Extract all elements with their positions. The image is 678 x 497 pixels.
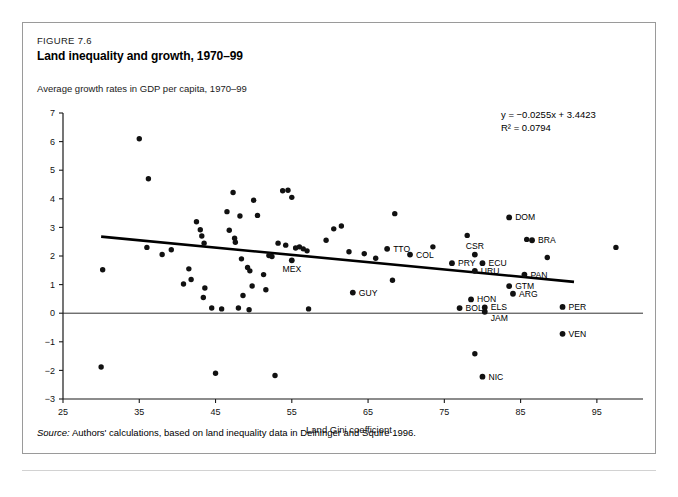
data-point [261,272,266,277]
data-point [323,238,328,243]
data-point [159,252,164,257]
data-point [194,219,199,224]
source-text: Authors' calculations, based on land ine… [72,427,416,438]
data-point-labeled [350,290,356,296]
data-point [98,364,103,369]
data-point [390,278,395,283]
y-axis-tick-label: 4 [50,194,55,204]
data-point [181,281,186,286]
data-point [230,190,235,195]
data-point [524,237,529,242]
data-point [224,209,229,214]
data-point-labeled [529,237,535,243]
data-point [331,226,336,231]
data-point [269,254,274,259]
data-point-label-arg: ARG [519,289,538,299]
data-point-labeled [482,309,488,315]
data-point [236,305,241,310]
y-axis-tick-label: −1 [45,337,55,347]
data-point-labeled [407,252,413,258]
figure-page: FIGURE 7.6 Land inequality and growth, 1… [0,0,678,497]
data-point-labeled [457,305,463,311]
x-axis-tick-label: 45 [211,407,221,417]
y-axis-tick-label: 3 [50,223,55,233]
data-point [246,307,251,312]
data-point [472,351,477,356]
data-point [272,373,277,378]
y-axis-tick-label: 2 [50,251,55,261]
x-axis-tick-label: 95 [592,407,602,417]
data-point [304,248,309,253]
data-point [240,293,245,298]
x-axis-tick-label: 55 [287,407,297,417]
data-point-label-pry: PRY [458,258,476,268]
data-point-labeled [384,246,390,252]
data-point [144,245,149,250]
data-point-label-bol: BOL [466,303,483,313]
data-point-label-col: COL [416,250,434,260]
data-point [247,268,252,273]
data-point [251,198,256,203]
data-point [199,233,204,238]
data-point-label-per: PER [569,302,587,312]
y-axis-tick-label: 1 [50,280,55,290]
data-point [289,195,294,200]
y-axis-tick-label: 0 [50,308,55,318]
data-point [227,228,232,233]
data-point-label-els: ELS [491,302,508,312]
data-point-labeled [506,283,512,289]
data-point [201,240,206,245]
data-point [392,211,397,216]
data-point-label-dom: DOM [515,212,535,222]
data-point [146,176,151,181]
data-point-label-jam: JAM [491,313,508,323]
data-point-labeled [449,260,455,266]
data-point-labeled [560,304,566,310]
data-point [209,305,214,310]
data-point [100,267,105,272]
data-point [285,188,290,193]
data-point [237,213,242,218]
data-point [137,136,142,141]
y-axis-tick-label: 5 [50,165,55,175]
data-point-labeled [472,268,478,274]
data-point [362,251,367,256]
data-point [198,227,203,232]
data-point [169,247,174,252]
data-point [255,213,260,218]
data-point-label-ven: VEN [569,329,587,339]
scatter-plot: −3−2−1012345672535455565758595Land Gini … [23,23,657,455]
y-axis-tick-label: −3 [45,394,55,404]
data-point [275,240,280,245]
data-point [373,256,378,261]
x-axis-tick-label: 35 [134,407,144,417]
data-point [201,295,206,300]
x-axis-tick-label: 75 [439,407,449,417]
data-point-label-mex: MEX [282,264,301,274]
data-point-label-nic: NIC [488,372,503,382]
data-point-labeled [522,272,528,278]
data-point [613,245,618,250]
data-point-label-csr: CSR [466,241,484,251]
data-point [186,266,191,271]
x-axis-tick-label: 85 [516,407,526,417]
data-point [202,285,207,290]
data-point [465,233,470,238]
data-point [239,256,244,261]
data-point-label-pan: PAN [530,270,547,280]
page-divider [22,470,656,471]
data-point-label-uru: URU [481,266,500,276]
figure-container: FIGURE 7.6 Land inequality and growth, 1… [22,22,656,454]
data-point-labeled [510,291,516,297]
data-point [249,283,254,288]
data-point [213,371,218,376]
data-point-label-guy: GUY [359,288,378,298]
data-point-labeled [468,297,474,303]
data-point [219,306,224,311]
data-point-labeled [506,214,512,220]
data-point-labeled [472,252,478,258]
data-point [283,242,288,247]
data-point [545,255,550,260]
data-point-labeled [289,257,295,263]
data-point [306,306,311,311]
